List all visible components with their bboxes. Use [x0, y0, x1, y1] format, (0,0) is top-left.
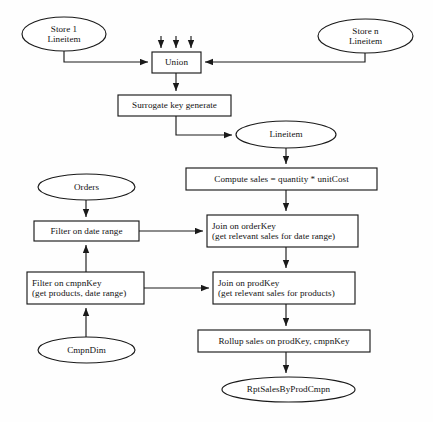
edge-surrogate-to-lineitem	[176, 116, 232, 135]
rollup-sales-step-shape	[198, 330, 370, 352]
filter-on-date-range-step-shape	[34, 221, 139, 241]
filter-on-cmpnkey-step-shape	[27, 272, 144, 304]
edge-layer	[64, 36, 365, 373]
edge-storen-to-union	[205, 53, 365, 62]
lineitem-dataset-shape	[236, 121, 336, 148]
orders-dataset-shape	[38, 174, 135, 200]
node-layer	[22, 17, 413, 402]
join-on-prodkey-step-shape	[213, 272, 355, 304]
diagram-graphics-layer	[0, 0, 433, 422]
cmpndim-dataset-shape	[38, 337, 135, 363]
edge-store1-to-union	[64, 51, 148, 62]
store-n-lineitem-source-shape	[318, 19, 413, 53]
rpt-sales-by-prod-cmpn-output-shape	[222, 377, 355, 402]
union-step-shape	[152, 52, 201, 73]
store-1-lineitem-source-shape	[22, 17, 106, 51]
etl-data-flow-diagram: Store 1LineitemStore nLineitemUnionSurro…	[0, 0, 433, 422]
compute-sales-step-shape	[186, 168, 377, 190]
surrogate-key-generate-step-shape	[118, 95, 231, 116]
join-on-orderkey-step-shape	[207, 215, 358, 247]
